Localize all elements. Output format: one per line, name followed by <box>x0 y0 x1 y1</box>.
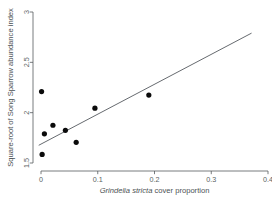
plot-canvas: 00.10.20.30.4 1.522.53 Grindelia stricta… <box>0 0 272 204</box>
data-point <box>42 131 47 136</box>
y-axis: 1.522.53 <box>22 10 33 168</box>
data-point <box>74 140 79 145</box>
x-axis-title-part: stricta <box>130 186 152 195</box>
data-point <box>92 106 97 111</box>
y-tick-label: 2 <box>22 111 31 115</box>
scatter-plot-figure: 00.10.20.30.4 1.522.53 Grindelia stricta… <box>0 0 272 204</box>
y-tick-label: 1.5 <box>22 158 31 168</box>
data-point-group <box>39 89 151 157</box>
regression-fit-line <box>39 33 252 145</box>
y-tick-label: 3 <box>22 10 31 14</box>
x-axis-title-part: cover proportion <box>152 186 209 195</box>
data-point <box>39 89 44 94</box>
x-tick-label: 0 <box>39 175 43 184</box>
x-axis: 00.10.20.30.4 <box>39 171 272 184</box>
data-point <box>50 123 55 128</box>
x-tick-label: 0.1 <box>93 175 103 184</box>
x-tick-label: 0.2 <box>150 175 160 184</box>
y-tick-label: 2.5 <box>22 57 31 67</box>
x-axis-title: Grindelia stricta cover proportion <box>100 186 210 195</box>
data-point <box>146 92 151 97</box>
y-axis-title: Square-root of Song Sparrow abundance in… <box>6 8 15 167</box>
x-tick-label: 0.4 <box>263 175 272 184</box>
x-axis-title-part: Grindelia <box>100 186 130 195</box>
data-point <box>63 128 68 133</box>
data-point <box>40 152 45 157</box>
y-axis-ticks: 1.522.53 <box>22 10 33 168</box>
x-axis-ticks: 00.10.20.30.4 <box>39 171 272 184</box>
x-tick-label: 0.3 <box>206 175 216 184</box>
